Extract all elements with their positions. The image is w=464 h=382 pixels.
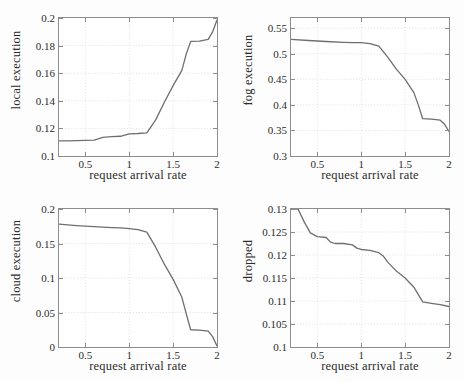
y-tick-label: 0.125 (262, 227, 287, 238)
y-tick-label: 0.2 (41, 204, 55, 215)
x-tick-mark-top (85, 18, 86, 22)
x-tick-mark-top (361, 209, 362, 213)
y-tick-mark-right (445, 79, 449, 80)
y-tick-mark-right (213, 278, 217, 279)
y-tick-mark-right (445, 156, 449, 157)
y-tick-mark (59, 278, 63, 279)
y-axis-label-dropped: dropped (240, 191, 256, 331)
y-tick-label: 0 (50, 342, 56, 353)
figure-four-panel-line-charts: 0.10.120.140.160.180.20.511.52 local exe… (0, 0, 464, 382)
x-tick-mark-top (317, 209, 318, 213)
y-tick-mark (291, 105, 295, 106)
x-tick-mark (85, 152, 86, 156)
y-axis-label-local-execution: local execution (8, 0, 24, 140)
x-tick-mark (405, 152, 406, 156)
x-tick-mark-top (129, 209, 130, 213)
x-tick-mark (173, 343, 174, 347)
x-tick-mark (317, 152, 318, 156)
y-tick-mark (291, 28, 295, 29)
panel-fog-execution: 0.30.350.40.450.50.550.511.52 fog execut… (232, 0, 464, 191)
y-tick-label: 0.1 (41, 273, 55, 284)
panel-local-execution: 0.10.120.140.160.180.20.511.52 local exe… (0, 0, 232, 191)
x-tick-mark-top (173, 209, 174, 213)
y-tick-label: 0.55 (268, 23, 287, 34)
x-axis-label-dropped: request arrival rate (290, 359, 450, 374)
y-tick-label: 0.15 (36, 238, 55, 249)
plot-svg-dropped (291, 209, 449, 347)
y-tick-mark-right (213, 244, 217, 245)
plot-area-dropped: 0.10.1050.110.1150.120.1250.130.511.52 (290, 208, 450, 348)
x-tick-mark (173, 152, 174, 156)
y-tick-mark-right (445, 347, 449, 348)
y-tick-mark-right (445, 278, 449, 279)
x-tick-mark-top (405, 18, 406, 22)
y-tick-mark-right (213, 156, 217, 157)
plot-area-fog-execution: 0.30.350.40.450.50.550.511.52 (290, 17, 450, 157)
y-tick-label: 0.1 (41, 151, 55, 162)
y-axis-label-cloud-execution: cloud execution (8, 191, 24, 331)
x-tick-mark (217, 343, 218, 347)
y-tick-label: 0.05 (36, 307, 55, 318)
y-tick-mark-right (213, 73, 217, 74)
y-tick-mark (59, 18, 63, 19)
y-tick-mark-right (445, 130, 449, 131)
x-tick-mark (85, 343, 86, 347)
panel-cloud-execution: 00.050.10.150.20.511.52 cloud execution … (0, 191, 232, 382)
y-tick-mark (291, 232, 295, 233)
y-tick-mark-right (213, 313, 217, 314)
plot-svg-local-execution (59, 18, 217, 156)
y-tick-mark (59, 46, 63, 47)
x-tick-mark-top (85, 209, 86, 213)
x-tick-mark (405, 343, 406, 347)
y-tick-mark-right (445, 324, 449, 325)
x-tick-mark-top (405, 209, 406, 213)
y-tick-mark-right (213, 101, 217, 102)
y-tick-label: 0.14 (36, 95, 55, 106)
y-tick-label: 0.1 (273, 342, 287, 353)
y-tick-label: 0.12 (36, 123, 55, 134)
x-axis-label-cloud-execution: request arrival rate (58, 359, 218, 374)
x-tick-mark-top (129, 18, 130, 22)
x-tick-mark (449, 343, 450, 347)
x-tick-mark (217, 152, 218, 156)
y-tick-label: 0.4 (273, 99, 287, 110)
x-tick-mark-top (173, 18, 174, 22)
data-series-line (59, 20, 217, 141)
x-tick-mark-top (317, 18, 318, 22)
x-axis-label-local-execution: request arrival rate (58, 168, 218, 183)
plot-area-cloud-execution: 00.050.10.150.20.511.52 (58, 208, 218, 348)
y-tick-mark (291, 209, 295, 210)
y-tick-label: 0.11 (268, 296, 287, 307)
y-tick-mark (291, 278, 295, 279)
y-tick-label: 0.35 (268, 125, 287, 136)
y-tick-mark (59, 244, 63, 245)
y-tick-mark (291, 301, 295, 302)
y-tick-mark-right (445, 232, 449, 233)
x-tick-mark-top (449, 209, 450, 213)
y-tick-mark-right (445, 105, 449, 106)
y-tick-label: 0.5 (273, 48, 287, 59)
y-tick-label: 0.105 (262, 319, 287, 330)
y-tick-mark-right (445, 301, 449, 302)
y-tick-mark (59, 156, 63, 157)
y-tick-mark (291, 347, 295, 348)
y-tick-mark (291, 54, 295, 55)
y-tick-mark-right (445, 255, 449, 256)
y-tick-label: 0.12 (268, 250, 287, 261)
x-tick-mark (129, 343, 130, 347)
x-tick-mark-top (361, 18, 362, 22)
y-tick-mark (291, 130, 295, 131)
y-tick-mark (59, 73, 63, 74)
data-series-line (59, 224, 217, 346)
x-tick-mark (449, 152, 450, 156)
x-tick-mark-top (217, 209, 218, 213)
x-tick-mark-top (449, 18, 450, 22)
y-tick-mark-right (445, 28, 449, 29)
x-tick-mark (129, 152, 130, 156)
plot-area-local-execution: 0.10.120.140.160.180.20.511.52 (58, 17, 218, 157)
y-tick-mark (59, 347, 63, 348)
y-tick-mark (291, 324, 295, 325)
x-tick-mark (317, 343, 318, 347)
plot-svg-fog-execution (291, 18, 449, 156)
y-tick-label: 0.45 (268, 74, 287, 85)
